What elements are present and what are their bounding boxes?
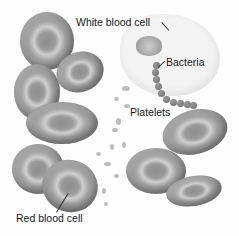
bacterium [163, 96, 170, 103]
label-bacteria: Bacteria [166, 56, 205, 68]
platelet [110, 144, 114, 150]
label-platelets: Platelets [130, 106, 170, 118]
bacterium [190, 102, 197, 109]
label-white-blood-cell: White blood cell [76, 16, 150, 28]
blood-cells-illustration: White blood cell Bacteria Platelets Red … [0, 0, 239, 236]
platelet [122, 142, 126, 148]
bacterium [152, 69, 159, 76]
platelet [102, 188, 106, 194]
platelet [112, 128, 118, 132]
bacterium [177, 100, 184, 107]
white-blood-cell-nucleus [136, 36, 162, 56]
platelet [116, 118, 121, 125]
bacterium [153, 76, 160, 83]
bacterium [170, 99, 177, 106]
platelet [122, 86, 130, 91]
platelet [104, 162, 111, 166]
label-red-blood-cell: Red blood cell [16, 212, 83, 224]
platelet [104, 202, 108, 206]
platelet [114, 97, 119, 101]
red-blood-cell [26, 102, 98, 144]
bacterium [155, 83, 162, 90]
platelet [114, 174, 119, 178]
platelet [96, 152, 101, 156]
